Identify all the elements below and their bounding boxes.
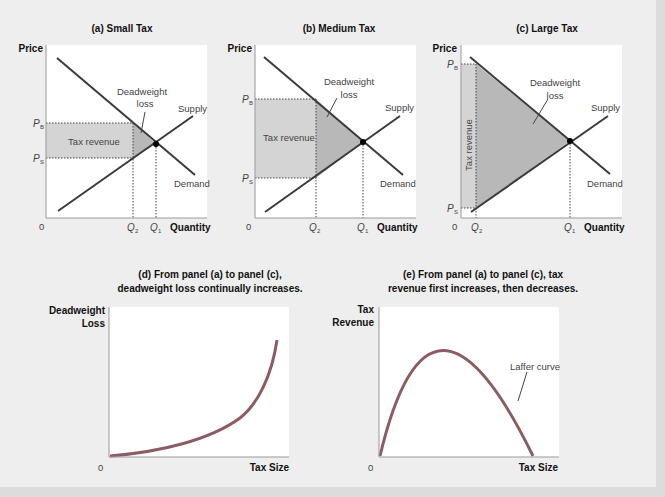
svg-text:0: 0 [98,462,103,473]
svg-text:0: 0 [39,221,44,232]
svg-text:loss: loss [137,98,154,109]
svg-text:P: P [242,94,249,105]
svg-text:Demand: Demand [380,178,416,189]
panel-e: (e) From panel (a) to panel (c), tax rev… [332,269,578,473]
svg-text:2: 2 [479,228,483,234]
svg-text:Supply: Supply [385,102,414,113]
svg-text:loss: loss [341,89,358,100]
svg-text:P: P [447,203,454,214]
svg-text:Tax revenue: Tax revenue [68,136,120,147]
svg-text:1: 1 [572,228,576,234]
svg-text:loss: loss [547,90,564,101]
svg-text:revenue first increases, then: revenue first increases, then decreases. [388,283,578,294]
svg-text:Deadweight: Deadweight [530,77,581,88]
panel-a: (a) Small Tax Price Deadweight loss Supp… [19,23,211,234]
svg-text:2: 2 [317,228,321,234]
svg-text:Demand: Demand [174,178,210,189]
svg-text:Q: Q [127,222,135,233]
svg-text:P: P [242,173,249,184]
svg-text:B: B [249,100,253,106]
svg-text:Deadweight: Deadweight [49,305,106,316]
svg-text:Tax revenue: Tax revenue [463,119,474,171]
svg-text:1: 1 [158,228,162,234]
svg-text:B: B [40,124,44,130]
svg-text:P: P [33,118,40,129]
panel-c: (c) Large Tax Price Deadweight loss Supp… [433,23,625,234]
svg-text:(d) From panel (a) to panel (c: (d) From panel (a) to panel (c), [138,269,282,280]
panel-d: (d) From panel (a) to panel (c), deadwei… [49,269,303,473]
svg-text:Revenue: Revenue [332,317,374,328]
svg-text:Deadweight: Deadweight [324,76,375,87]
svg-text:(c) Large Tax: (c) Large Tax [516,23,578,34]
svg-text:0: 0 [246,221,251,232]
svg-text:0: 0 [368,462,373,473]
svg-text:P: P [33,153,40,164]
svg-text:B: B [454,65,458,71]
svg-text:Tax: Tax [358,304,375,315]
svg-text:S: S [40,159,44,165]
svg-text:S: S [249,179,253,185]
svg-text:Demand: Demand [587,178,623,189]
svg-text:0: 0 [452,221,457,232]
svg-text:P: P [447,59,454,70]
svg-text:Supply: Supply [178,103,207,114]
svg-text:Quantity: Quantity [377,222,418,233]
svg-text:Quantity: Quantity [170,222,211,233]
svg-text:Quantity: Quantity [584,222,625,233]
svg-text:Tax Size: Tax Size [250,462,290,473]
svg-text:Loss: Loss [82,318,106,329]
panel-b: (b) Medium Tax Price Deadweight loss Sup… [228,23,418,234]
svg-text:Supply: Supply [591,102,620,113]
svg-text:Tax revenue: Tax revenue [263,132,315,143]
svg-text:deadweight loss continually in: deadweight loss continually increases. [117,283,302,294]
svg-text:2: 2 [135,228,139,234]
svg-text:Q: Q [357,222,365,233]
svg-text:Q: Q [564,222,572,233]
svg-text:Q: Q [150,222,158,233]
svg-text:Price: Price [433,43,458,54]
svg-text:1: 1 [365,228,369,234]
svg-text:(b) Medium Tax: (b) Medium Tax [303,23,376,34]
svg-text:(e) From panel (a) to panel (c: (e) From panel (a) to panel (c), tax [403,269,563,280]
svg-text:Price: Price [228,43,253,54]
svg-text:S: S [454,209,458,215]
svg-text:Q: Q [309,222,317,233]
svg-text:Q: Q [471,222,479,233]
svg-text:Price: Price [19,43,44,54]
figure: (a) Small Tax Price Deadweight loss Supp… [0,0,665,497]
svg-text:Laffer curve: Laffer curve [510,361,560,372]
svg-text:Tax Size: Tax Size [519,462,559,473]
svg-text:Deadweight: Deadweight [117,86,168,97]
panel-title: (a) Small Tax [92,23,153,34]
